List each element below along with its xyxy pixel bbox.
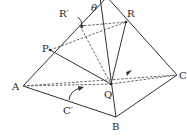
segment-Q-C xyxy=(111,75,177,84)
label-theta: θ xyxy=(91,2,97,13)
label-P: P xyxy=(42,43,49,54)
segment-R-Q xyxy=(111,22,126,84)
label-Q: Q xyxy=(104,89,112,100)
tetrahedron-diagram: θ R′ R P A Q C C′ B xyxy=(0,0,187,139)
label-A: A xyxy=(11,81,20,92)
arrowhead-icon xyxy=(78,86,84,91)
label-R: R xyxy=(127,8,135,19)
label-C: C xyxy=(179,70,187,81)
arrowhead-icon xyxy=(126,70,132,76)
rotation-arrow-C xyxy=(69,88,80,100)
edge-apex-C xyxy=(107,0,177,75)
edge-B-C xyxy=(116,75,177,117)
point-R xyxy=(125,21,128,24)
label-C-prime: C′ xyxy=(63,105,74,116)
point-P xyxy=(49,49,52,52)
edge-A-C-hidden xyxy=(23,75,177,86)
label-B: B xyxy=(112,121,119,132)
label-R-prime: R′ xyxy=(59,8,70,19)
point-Q xyxy=(110,83,113,86)
